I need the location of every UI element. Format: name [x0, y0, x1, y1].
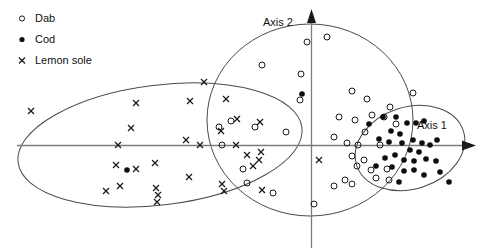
data-point — [396, 179, 402, 185]
data-point — [397, 131, 403, 137]
data-point — [331, 183, 337, 189]
data-point — [304, 39, 310, 45]
data-point — [393, 114, 399, 120]
data-point — [352, 117, 358, 123]
data-point — [434, 137, 440, 143]
data-point — [393, 121, 399, 127]
data-point — [433, 158, 439, 164]
data-point — [201, 79, 207, 85]
data-point — [252, 124, 258, 130]
data-point — [376, 136, 382, 142]
data-point — [349, 153, 355, 159]
data-point — [244, 152, 250, 158]
data-point — [399, 140, 405, 146]
data-point — [223, 96, 229, 102]
data-point — [103, 188, 109, 194]
data-point — [28, 108, 34, 114]
data-point — [427, 142, 433, 148]
legend-item-label: Cod — [35, 33, 55, 45]
plot-canvas: Axis 1 Axis 2 DabCodLemon sole — [0, 0, 499, 248]
data-point — [240, 166, 246, 172]
data-point — [389, 164, 395, 170]
data-point — [228, 118, 234, 124]
data-point — [404, 120, 410, 126]
data-point — [316, 157, 322, 163]
data-point — [413, 120, 419, 126]
data-point — [388, 128, 394, 134]
filled-circle-marker-icon — [19, 37, 24, 42]
data-point — [366, 121, 372, 127]
data-point — [128, 125, 134, 131]
data-point — [401, 168, 407, 174]
y-axis-label: Axis 2 — [263, 16, 293, 28]
data-point — [349, 88, 355, 94]
data-point — [364, 96, 370, 102]
data-point — [124, 167, 130, 173]
legend-item-label: Dab — [35, 12, 55, 24]
data-point — [133, 166, 139, 172]
series-dab — [216, 34, 416, 207]
data-point — [259, 62, 265, 68]
data-point — [219, 181, 225, 187]
data-point — [411, 158, 417, 164]
data-point — [401, 157, 407, 163]
data-point — [152, 160, 158, 166]
data-point — [410, 137, 416, 143]
y-axis-arrowhead-icon — [307, 9, 316, 23]
data-point — [419, 140, 425, 146]
scatter-plot-figure: Axis 1 Axis 2 DabCodLemon sole — [0, 0, 499, 248]
data-point — [423, 156, 429, 162]
data-point — [113, 162, 119, 168]
data-point — [258, 149, 264, 155]
data-point — [297, 97, 303, 103]
data-point — [392, 152, 398, 158]
data-point — [342, 177, 348, 183]
data-point — [187, 98, 193, 104]
data-point — [299, 91, 305, 97]
legend-item: Lemon sole — [19, 54, 92, 66]
data-point — [361, 157, 367, 163]
data-point — [387, 104, 393, 110]
data-point — [421, 118, 427, 124]
data-point — [250, 163, 256, 169]
data-point — [349, 181, 355, 187]
data-point — [380, 114, 386, 120]
legend-item: Dab — [19, 12, 55, 24]
data-point — [117, 183, 123, 189]
data-point — [382, 155, 388, 161]
data-point — [407, 147, 413, 153]
data-point — [256, 157, 262, 163]
data-point — [331, 134, 337, 140]
data-point — [183, 137, 189, 143]
data-point — [416, 149, 422, 155]
data-point — [336, 114, 342, 120]
data-point — [234, 116, 240, 122]
data-point — [368, 167, 374, 173]
data-point — [153, 185, 159, 191]
data-point — [373, 175, 379, 181]
data-point — [411, 167, 417, 173]
data-point — [373, 163, 379, 169]
data-point — [384, 166, 390, 172]
legend: DabCodLemon sole — [19, 12, 92, 66]
data-point — [437, 169, 443, 175]
data-point — [155, 192, 161, 198]
data-point — [410, 90, 416, 96]
data-point — [186, 174, 192, 180]
data-point — [133, 100, 139, 106]
data-point — [421, 172, 427, 178]
series-lemon-sole — [28, 79, 322, 205]
data-point — [369, 112, 375, 118]
data-point — [259, 187, 265, 193]
data-point — [154, 199, 160, 205]
cross-marker-icon — [19, 58, 25, 64]
open-circle-marker-icon — [19, 16, 24, 21]
legend-item-label: Lemon sole — [35, 54, 92, 66]
x-axis-arrowhead-icon — [462, 141, 476, 151]
data-point — [270, 190, 276, 196]
data-point — [257, 119, 263, 125]
data-point — [386, 139, 392, 145]
data-point — [298, 71, 304, 77]
data-point — [324, 34, 330, 40]
data-point — [446, 179, 452, 185]
